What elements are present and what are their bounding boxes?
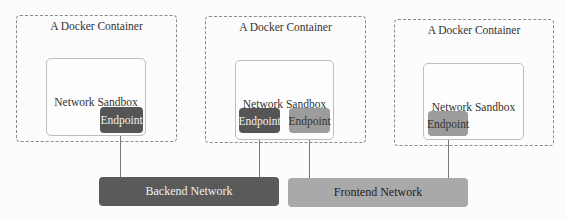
container-label: A Docker Container: [17, 20, 176, 32]
docker-network-diagram: A Docker Container Network Sandbox Endpo…: [0, 0, 566, 220]
frontend-network: Frontend Network: [288, 178, 468, 207]
container-label: A Docker Container: [395, 24, 553, 36]
endpoint-c2-backend: Endpoint: [239, 108, 280, 133]
endpoint-c3-frontend: Endpoint: [428, 111, 468, 136]
endpoint-c1-backend: Endpoint: [100, 107, 143, 133]
backend-network: Backend Network: [99, 177, 279, 206]
endpoint-c2-frontend: Endpoint: [289, 108, 330, 133]
container-label: A Docker Container: [206, 21, 365, 33]
